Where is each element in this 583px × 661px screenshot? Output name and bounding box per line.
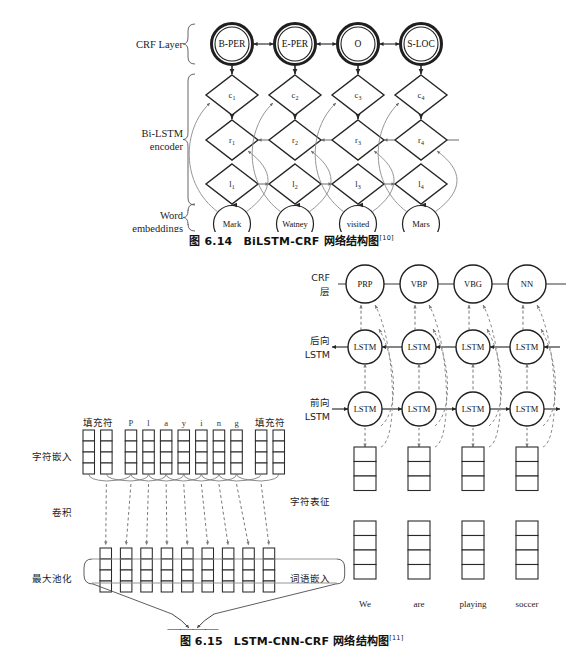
conv-cell bbox=[161, 570, 173, 581]
conv-cell bbox=[222, 570, 234, 581]
padding-token-label: 填充符 bbox=[83, 417, 113, 428]
char-rep-cell bbox=[354, 447, 376, 462]
input-word-label: are bbox=[414, 599, 425, 609]
word-embed-cell bbox=[354, 521, 376, 536]
label-forward-2: LSTM bbox=[305, 411, 330, 422]
crf-tag-label: VBP bbox=[411, 279, 428, 289]
conv-cell bbox=[161, 548, 173, 559]
charrep-to-crf-arc bbox=[537, 305, 554, 447]
figure-page: CRF LayerBi-LSTMencoderWordembeddingsB-P… bbox=[0, 0, 583, 661]
pool-to-charrep-right-arrow bbox=[197, 614, 214, 628]
conv-cell bbox=[120, 559, 131, 570]
letter-token-label: l bbox=[147, 418, 150, 428]
char-embed-cell bbox=[160, 463, 172, 474]
word-embed-cell bbox=[516, 565, 538, 580]
letter-token-label: y bbox=[182, 418, 187, 428]
backward-lstm-label: LSTM bbox=[408, 342, 431, 352]
word-embed-cell bbox=[408, 536, 430, 551]
word-node-label: Watney bbox=[282, 219, 308, 229]
padding-token-label: 填充符 bbox=[255, 417, 285, 428]
letter-token-label: g bbox=[234, 418, 239, 428]
char-embed-cell bbox=[273, 452, 285, 463]
conv-dashed-arrow bbox=[166, 484, 167, 545]
crf-tag-label: VBG bbox=[464, 279, 482, 289]
label-crf-2: 层 bbox=[320, 286, 330, 297]
conv-cell bbox=[141, 559, 153, 570]
word-embed-cell bbox=[462, 536, 484, 551]
conv-cell bbox=[202, 559, 214, 570]
word-embed-cell bbox=[354, 550, 376, 565]
conv-cell bbox=[100, 548, 112, 559]
crf-node-label: O bbox=[355, 39, 362, 49]
crf-node-label: B-PER bbox=[219, 39, 247, 49]
conv-cell bbox=[243, 548, 255, 559]
char-embed-cell bbox=[143, 430, 155, 441]
crf-node-label: S-LOC bbox=[407, 39, 434, 49]
backward-lstm-label: LSTM bbox=[462, 342, 485, 352]
forward-lstm-label: LSTM bbox=[462, 404, 485, 414]
brace-crf-layer bbox=[183, 24, 195, 64]
word-embed-cell bbox=[516, 521, 538, 536]
fig2-caption-title: LSTM-CNN-CRF 网络结构图 bbox=[234, 635, 389, 648]
char-embed-cell bbox=[255, 430, 267, 441]
word-embed-cell bbox=[462, 521, 484, 536]
backward-lstm-label: LSTM bbox=[516, 342, 539, 352]
conv-cell bbox=[202, 548, 214, 559]
label-crf-layer: CRF Layer bbox=[136, 39, 183, 50]
fig2-caption-ref: [11] bbox=[389, 634, 403, 642]
forward-lstm-label: LSTM bbox=[408, 404, 431, 414]
char-embed-cell bbox=[83, 430, 95, 441]
label-crf-1: CRF bbox=[311, 272, 330, 283]
char-embed-cell bbox=[160, 430, 172, 441]
crf-tag-label: PRP bbox=[357, 279, 372, 289]
conv-dashed-arrow bbox=[219, 484, 228, 545]
word-embed-cell bbox=[516, 550, 538, 565]
fig1-caption-ref: [10] bbox=[380, 234, 394, 242]
skip-arc-left bbox=[189, 103, 218, 212]
brace-bilstm-encoder bbox=[183, 74, 195, 205]
word-embed-cell bbox=[354, 536, 376, 551]
label-bilstm-2: encoder bbox=[150, 141, 184, 152]
charrep-to-crf-arc bbox=[483, 305, 500, 447]
char-rep-cell bbox=[516, 447, 538, 462]
char-rep-cell bbox=[408, 476, 430, 491]
word-embed-cell bbox=[516, 536, 538, 551]
conv-cell bbox=[120, 570, 131, 581]
char-embed-cell bbox=[231, 452, 243, 463]
char-embed-cell bbox=[83, 441, 95, 452]
word-embed-cell bbox=[462, 565, 484, 580]
conv-cell bbox=[141, 548, 153, 559]
pool-to-charrep-left-arrow bbox=[172, 614, 189, 628]
char-embed-cell bbox=[196, 452, 208, 463]
input-word-label: We bbox=[359, 599, 371, 609]
conv-cell bbox=[222, 559, 234, 570]
char-rep-cell bbox=[408, 462, 430, 477]
conv-cell bbox=[182, 559, 194, 570]
char-embed-cell bbox=[178, 441, 190, 452]
word-embed-cell bbox=[408, 550, 430, 565]
forward-lstm-label: LSTM bbox=[516, 404, 539, 414]
crf-tag-label: NN bbox=[521, 279, 533, 289]
char-embed-cell bbox=[213, 430, 225, 441]
conv-cell bbox=[263, 570, 275, 581]
char-embed-cell bbox=[125, 452, 137, 463]
word-embed-cell bbox=[462, 550, 484, 565]
label-backward-1: 后向 bbox=[310, 335, 330, 346]
fig1-caption-title: BiLSTM-CRF 网络结构图 bbox=[243, 235, 379, 248]
forward-lstm-label: LSTM bbox=[354, 404, 377, 414]
char-embed-cell bbox=[160, 441, 172, 452]
char-embed-cell bbox=[231, 463, 243, 474]
char-embed-cell bbox=[213, 441, 225, 452]
conv-cell bbox=[182, 570, 194, 581]
label-backward-2: LSTM bbox=[305, 349, 330, 360]
label-bilstm-1: Bi-LSTM bbox=[142, 128, 184, 139]
conv-cell bbox=[202, 570, 214, 581]
char-rep-cell bbox=[408, 447, 430, 462]
char-embed-cell bbox=[273, 441, 285, 452]
label-forward-1: 前向 bbox=[310, 397, 330, 408]
label-word-embed-2: embeddings bbox=[132, 223, 183, 232]
conv-cell bbox=[141, 570, 153, 581]
conv-dashed-arrow bbox=[147, 484, 149, 545]
char-embed-cell bbox=[213, 452, 225, 463]
label-conv: 卷积 bbox=[52, 507, 72, 518]
